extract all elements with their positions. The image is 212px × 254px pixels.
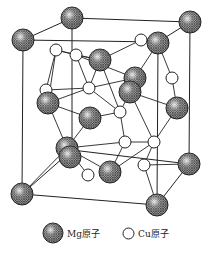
mg-atom: [147, 32, 169, 54]
cu-atom: [135, 34, 147, 46]
mg-atom: [89, 49, 111, 71]
mg-atom: [12, 29, 34, 51]
mg-atom: [179, 11, 201, 33]
mg-atom: [37, 92, 59, 114]
cu-atom: [119, 136, 131, 148]
legend-cu: Cu原子: [122, 227, 169, 240]
cu-atom: [82, 169, 94, 181]
cell-edge: [157, 42, 158, 205]
cu-atom: [148, 136, 160, 148]
mg-atom: [166, 97, 188, 119]
crystal-structure-diagram: [0, 0, 212, 254]
legend-mg: Mg原子: [42, 222, 100, 244]
cu-atom: [114, 106, 126, 118]
mg-atom: [119, 81, 141, 103]
cu-atom: [166, 72, 178, 84]
mg-atom: [61, 7, 83, 29]
cell-edge: [22, 194, 157, 205]
cu-atom: [50, 44, 62, 56]
mg-atom-icon: [42, 222, 64, 244]
cell-edge: [22, 40, 23, 194]
mg-atom: [59, 146, 81, 168]
cu-atom: [83, 82, 95, 94]
legend-cu-label: Cu原子: [138, 227, 169, 240]
mg-atom: [178, 153, 200, 175]
legend-mg-label: Mg原子: [67, 227, 100, 240]
cu-atom: [70, 49, 82, 61]
cell-edge: [72, 18, 190, 22]
cu-atom: [138, 159, 150, 171]
cell-edge: [189, 22, 190, 164]
mg-atom: [99, 161, 121, 183]
cu-atom-icon: [122, 227, 135, 240]
cell-edge: [72, 150, 189, 164]
mg-atom: [11, 183, 33, 205]
mg-atom: [79, 107, 101, 129]
mg-atom: [146, 194, 168, 216]
